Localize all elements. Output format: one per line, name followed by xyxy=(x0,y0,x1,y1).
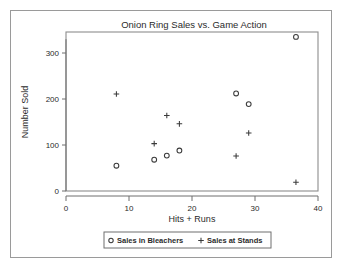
data-point-circle xyxy=(294,35,299,40)
data-point-circle xyxy=(246,102,251,107)
legend-label: Sales in Bleachers xyxy=(117,236,183,245)
y-tick-label: 100 xyxy=(46,141,60,150)
x-tick-label: 30 xyxy=(251,204,260,213)
x-tick-label: 40 xyxy=(314,204,323,213)
x-tick-label: 10 xyxy=(125,204,134,213)
y-tick-label: 0 xyxy=(55,187,60,196)
legend-label: Sales at Stands xyxy=(207,236,262,245)
legend-entries: Sales in BleachersSales at Stands xyxy=(109,236,263,245)
data-point-circle xyxy=(177,148,182,153)
y-axis-label: Number Sold xyxy=(20,86,30,139)
data-point-plus xyxy=(246,130,252,136)
y-axis-ticks: 0100200300 xyxy=(46,39,66,196)
data-point-circle xyxy=(109,238,113,242)
x-tick-label: 0 xyxy=(64,204,69,213)
data-point-plus xyxy=(151,141,157,147)
data-point-plus xyxy=(177,121,183,127)
y-tick-label: 200 xyxy=(46,95,60,104)
plot-area-frame xyxy=(66,32,318,191)
x-axis-label: Hits + Runs xyxy=(169,214,216,224)
data-point-plus xyxy=(164,113,170,119)
x-axis-ticks: 010203040 xyxy=(64,196,323,213)
data-point-circle xyxy=(152,157,157,162)
x-tick-label: 20 xyxy=(188,204,197,213)
data-point-plus xyxy=(114,91,120,97)
scatter-chart: Onion Ring Sales vs. Game Action 0100200… xyxy=(0,0,344,274)
data-point-circle xyxy=(164,153,169,158)
chart-title: Onion Ring Sales vs. Game Action xyxy=(121,19,267,30)
y-tick-label: 300 xyxy=(46,49,60,58)
data-point-circle xyxy=(114,163,119,168)
data-point-plus xyxy=(198,238,204,244)
data-point-plus xyxy=(233,153,239,159)
data-markers xyxy=(114,35,299,186)
data-point-circle xyxy=(234,91,239,96)
data-point-plus xyxy=(293,179,299,185)
